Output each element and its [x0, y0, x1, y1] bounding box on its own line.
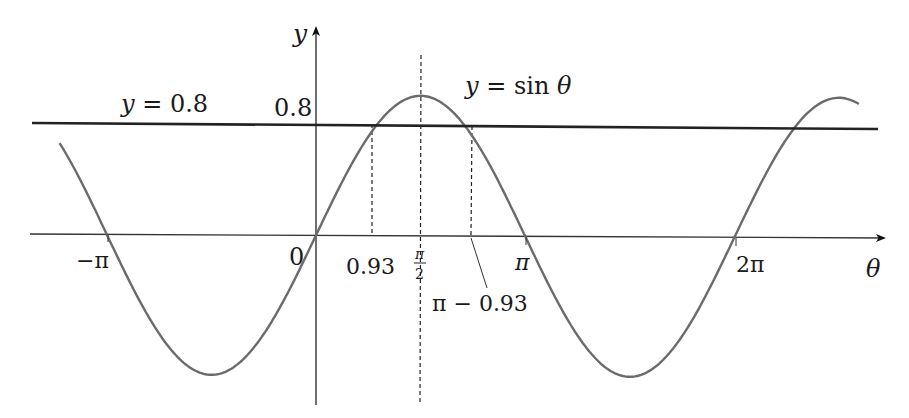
horizontal-line-label: y = 0.8 — [120, 90, 208, 118]
tick-label-pi: π — [514, 250, 530, 275]
tick-label-2pi: 2π — [736, 252, 764, 277]
line-label-var: y — [120, 90, 135, 118]
origin-label: 0 — [289, 243, 304, 271]
tick-label-093: 0.93 — [346, 254, 395, 279]
line-label-eq: = — [135, 90, 170, 118]
y-tick-label-08: 0.8 — [274, 94, 312, 122]
x-axis — [30, 234, 884, 238]
y-axis-label: y — [292, 19, 308, 48]
leader-line-pi-minus-093 — [471, 238, 487, 288]
tick-label-pi-minus-093: π − 0.93 — [432, 291, 528, 316]
curve-label-var-y: y — [464, 72, 479, 100]
dashed-line-pi-minus-093 — [471, 126, 472, 236]
tick-label-pi-half-num: π — [414, 246, 425, 262]
x-axis-label: θ — [866, 255, 881, 283]
dashed-line-pi-half — [420, 55, 421, 403]
curve-label-eq: = sin — [479, 72, 557, 100]
curve-label-theta: θ — [557, 72, 572, 100]
curve-label: y = sin θ — [464, 72, 572, 100]
sine-figure: y θ y = 0.8 0.8 y = sin θ 0 −π 0.93 π 2 … — [0, 0, 909, 418]
tick-label-pi-half-den: 2 — [415, 266, 424, 282]
line-label-value: 0.8 — [170, 90, 208, 118]
horizontal-line-08 — [32, 123, 878, 129]
tick-label-neg-pi: −π — [76, 248, 109, 273]
